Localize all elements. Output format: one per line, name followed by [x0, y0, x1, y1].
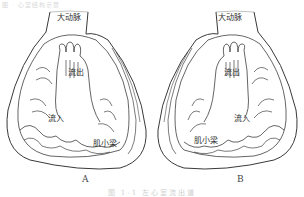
figure-panel-b: 大动脉 流出 流入 肌小梁 B — [152, 0, 304, 182]
panel-letter-a: A — [82, 174, 89, 184]
label-trabeculae: 肌小梁 — [93, 140, 117, 148]
panel-letter-b: B — [237, 174, 244, 184]
heart-diagram-b — [152, 0, 304, 182]
label-outflow: 流出 — [224, 69, 240, 77]
label-aorta: 大动脉 — [57, 14, 81, 22]
heart-diagram-a — [0, 0, 152, 182]
label-inflow: 流入 — [48, 115, 64, 123]
label-trabeculae: 肌小梁 — [194, 137, 218, 145]
label-aorta: 大动脉 — [218, 14, 242, 22]
figure-caption: 图 1-1 左心室流出道 — [0, 187, 304, 197]
label-outflow: 流出 — [68, 69, 84, 77]
figure-panel-a: 大动脉 流出 流入 肌小梁 A — [0, 0, 152, 182]
label-inflow: 流入 — [234, 115, 250, 123]
